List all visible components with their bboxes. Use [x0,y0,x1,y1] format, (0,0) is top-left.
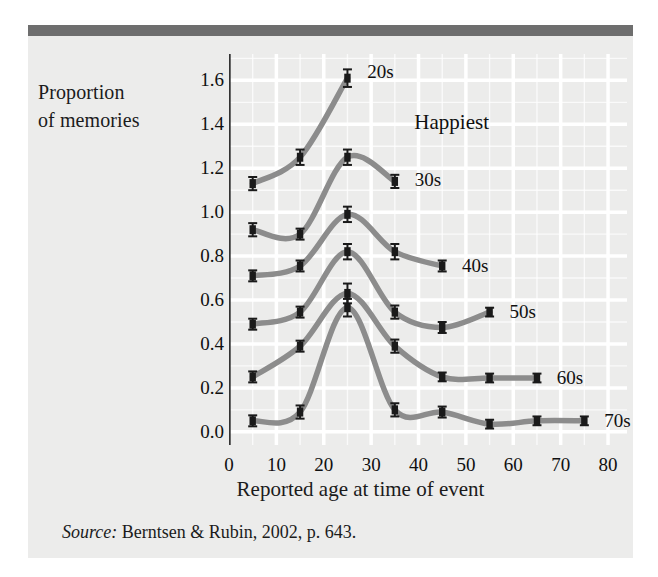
x-axis-title: Reported age at time of event [28,477,633,502]
x-axis-title-text: Reported age at time of event [177,477,485,501]
x-tick-label: 60 [493,454,533,476]
figure-header-bar [28,25,633,36]
x-tick-label: 40 [399,454,439,476]
y-tick-label: 0.2 [178,377,224,399]
y-axis-ticks: 0.00.20.40.60.81.01.21.41.6 [174,54,224,445]
source-citation: Berntsen & Rubin, 2002, p. 643. [117,522,356,542]
x-tick-label: 30 [351,454,391,476]
y-tick-label: 1.2 [178,157,224,179]
y-tick-label: 0.4 [178,333,224,355]
series-label-40s: 40s [462,255,488,277]
x-tick-label: 0 [209,454,249,476]
source-label: Source: [62,522,117,542]
series-label-60s: 60s [557,367,583,389]
series-label-70s: 70s [604,410,630,432]
y-tick-label: 1.4 [178,113,224,135]
source-caption: Source: Berntsen & Rubin, 2002, p. 643. [62,522,356,543]
x-tick-label: 10 [256,454,296,476]
x-tick-label: 50 [446,454,486,476]
y-tick-label: 0.0 [178,421,224,443]
x-tick-label: 80 [588,454,628,476]
series-label-20s: 20s [367,61,393,83]
y-tick-label: 0.6 [178,289,224,311]
chart-annotation-happiest: Happiest [414,110,489,135]
x-tick-label: 70 [541,454,581,476]
series-label-50s: 50s [509,301,535,323]
y-tick-label: 1.0 [178,201,224,223]
figure-container: Proportion of memories 0.00.20.40.60.81.… [28,25,633,558]
series-label-30s: 30s [415,169,441,191]
series-labels: 20s30s40s50s60s70sHappiest [229,54,649,445]
y-tick-label: 1.6 [178,69,224,91]
x-tick-label: 20 [304,454,344,476]
y-tick-label: 0.8 [178,245,224,267]
